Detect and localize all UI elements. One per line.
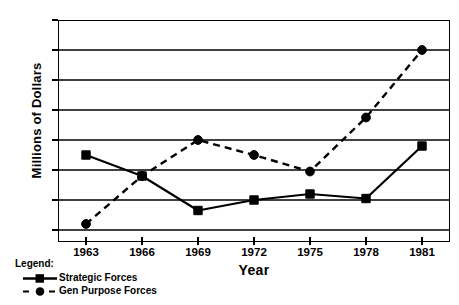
legend-key-square-icon bbox=[23, 271, 57, 284]
x-tick-label: 1963 bbox=[62, 246, 110, 258]
legend-entries: Strategic ForcesGen Purpose Forces bbox=[15, 271, 245, 297]
chart-figure: Millions of Dollars 246810121416 1963196… bbox=[0, 0, 459, 305]
x-tick-mark bbox=[421, 237, 423, 245]
x-tick-label: 1972 bbox=[230, 246, 278, 258]
x-tick-mark bbox=[365, 237, 367, 245]
data-point-marker bbox=[82, 220, 91, 229]
data-point-marker bbox=[306, 167, 315, 176]
legend-label: Strategic Forces bbox=[59, 272, 137, 283]
data-point-marker bbox=[194, 206, 202, 214]
data-point-marker bbox=[306, 190, 314, 198]
data-point-marker bbox=[82, 151, 90, 159]
data-point-marker bbox=[250, 196, 258, 204]
data-point-marker bbox=[138, 172, 147, 181]
data-point-marker bbox=[362, 113, 371, 122]
legend-entry: Gen Purpose Forces bbox=[23, 284, 245, 297]
data-series-layer bbox=[58, 20, 450, 242]
chart-legend: Legend: Strategic ForcesGen Purpose Forc… bbox=[15, 258, 245, 297]
data-point-marker bbox=[418, 46, 427, 55]
plot-area bbox=[58, 20, 450, 242]
x-tick-mark bbox=[309, 237, 311, 245]
data-point-marker bbox=[418, 142, 426, 150]
legend-label: Gen Purpose Forces bbox=[59, 285, 157, 296]
legend-entry: Strategic Forces bbox=[23, 271, 245, 284]
legend-key-circle-icon bbox=[23, 284, 57, 297]
data-point-marker bbox=[194, 136, 203, 145]
x-tick-mark bbox=[197, 237, 199, 245]
x-tick-label: 1975 bbox=[286, 246, 334, 258]
x-tick-label: 1969 bbox=[174, 246, 222, 258]
x-tick-label: 1981 bbox=[398, 246, 446, 258]
x-tick-mark bbox=[253, 237, 255, 245]
data-point-marker bbox=[362, 194, 370, 202]
x-tick-label: 1966 bbox=[118, 246, 166, 258]
x-tick-mark bbox=[85, 237, 87, 245]
x-tick-label: 1978 bbox=[342, 246, 390, 258]
legend-title: Legend: bbox=[15, 258, 245, 269]
x-tick-mark bbox=[141, 237, 143, 245]
data-point-marker bbox=[250, 151, 259, 160]
